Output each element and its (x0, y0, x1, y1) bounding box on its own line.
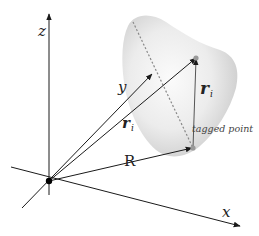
y-axis-label: y (118, 80, 126, 95)
tagged-point-label: tagged point (192, 124, 253, 134)
z-axis-label: z (38, 24, 46, 39)
relative-r-i-symbol: r (200, 78, 209, 98)
x-axis-label: x (222, 205, 230, 220)
r-i-subscript: i (131, 123, 134, 133)
R-vector (49, 148, 192, 181)
body-point-marker (193, 55, 198, 60)
relative-r-i-subscript: i (210, 89, 213, 99)
relative-r-i-label: ri (200, 80, 213, 97)
origin-point (46, 178, 52, 184)
x-axis (11, 167, 240, 226)
diagram-canvas: z y x ri R ri tagged point (0, 0, 259, 236)
R-label: R (124, 154, 135, 169)
r-i-label: ri (122, 116, 134, 131)
tagged-point-marker (190, 145, 195, 150)
y-axis (22, 74, 152, 208)
r-i-symbol: r (122, 114, 130, 132)
